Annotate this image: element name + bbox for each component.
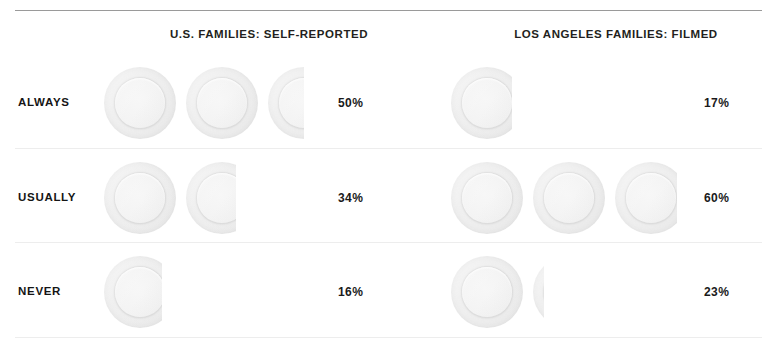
- value-label-right: 60%: [704, 191, 729, 205]
- plate-icon-partial: [451, 63, 512, 143]
- plate-icon-partial: [186, 158, 236, 238]
- plate-glyph: [186, 162, 236, 234]
- value-label-right: 17%: [704, 96, 729, 110]
- plate-icon-partial: [104, 252, 162, 332]
- plate-icon: [533, 158, 605, 238]
- column-header-left: U.S. FAMILIES: SELF-REPORTED: [104, 28, 434, 40]
- plate-icon: [615, 158, 677, 238]
- plate-glyph: [104, 162, 176, 234]
- plate-glyph: [186, 67, 258, 139]
- row-label: NEVER: [18, 285, 61, 297]
- plate-glyph: [451, 256, 523, 328]
- plate-icon: [104, 158, 176, 238]
- row-label: ALWAYS: [18, 96, 70, 108]
- plate-glyph: [615, 162, 677, 234]
- plate-group-left: [104, 248, 330, 336]
- plate-icon-partial: [533, 252, 544, 332]
- value-label-left: 16%: [338, 285, 363, 299]
- plate-icon: [104, 63, 176, 143]
- row-divider: [15, 242, 762, 243]
- value-label-right: 23%: [704, 285, 729, 299]
- row-divider: [15, 337, 762, 338]
- column-header-right: LOS ANGELES FAMILIES: FILMED: [451, 28, 777, 40]
- plate-glyph: [104, 256, 162, 328]
- plate-glyph: [104, 67, 176, 139]
- row-divider: [15, 148, 762, 149]
- chart-row: NEVER 16% 23%: [0, 245, 777, 339]
- chart-row: USUALLY 34% 60%: [0, 151, 777, 245]
- plate-icon: [451, 252, 523, 332]
- plate-infographic: U.S. FAMILIES: SELF-REPORTED LOS ANGELES…: [0, 0, 777, 352]
- plate-glyph: [268, 67, 304, 139]
- plate-glyph: [533, 162, 605, 234]
- plate-glyph: [533, 256, 544, 328]
- plate-glyph: [451, 162, 523, 234]
- plate-icon: [451, 158, 523, 238]
- plate-icon: [186, 63, 258, 143]
- chart-row: ALWAYS 50% 17%: [0, 56, 777, 150]
- value-label-left: 50%: [338, 96, 363, 110]
- plate-icon-partial: [268, 63, 304, 143]
- plate-group-right: [451, 248, 677, 336]
- row-label: USUALLY: [18, 191, 76, 203]
- plate-group-left: [104, 59, 330, 147]
- plate-group-right: [451, 59, 677, 147]
- top-divider-rule: [15, 10, 762, 11]
- plate-glyph: [451, 67, 512, 139]
- plate-group-left: [104, 154, 330, 242]
- plate-group-right: [451, 154, 677, 242]
- value-label-left: 34%: [338, 191, 363, 205]
